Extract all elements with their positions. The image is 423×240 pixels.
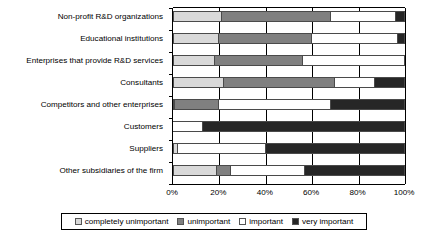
axis-tick (169, 74, 173, 75)
legend-label: completely unimportant (85, 217, 169, 226)
category-label: Competitors and other enterprises (0, 100, 163, 109)
plot-frame-bottom (173, 184, 405, 185)
bar-segment (173, 11, 222, 22)
stacked-bar-chart: Non-profit R&D organizationsEducational … (0, 0, 423, 240)
legend-swatch-icon (75, 218, 82, 225)
category-label: Enterprises that provide R&D services (0, 56, 163, 65)
bar-segment (217, 165, 231, 176)
chart-legend: completely unimportantunimportantimporta… (61, 213, 367, 230)
bar-segment (398, 33, 405, 44)
bar-segment (203, 121, 405, 132)
bar-row (173, 143, 405, 154)
axis-tick (169, 162, 173, 163)
x-axis-tick-label: 0% (155, 188, 189, 198)
axis-tick (169, 52, 173, 53)
axis-tick (169, 118, 173, 119)
x-axis-tick-label: 40% (248, 188, 282, 198)
legend-label: important (249, 217, 283, 226)
category-label: Customers (0, 122, 163, 131)
bar-segment (312, 33, 398, 44)
category-label: Consultants (0, 78, 163, 87)
bar-row (173, 99, 405, 110)
plot-frame-top (173, 7, 405, 8)
bar-segment (219, 99, 330, 110)
axis-tick (169, 184, 173, 185)
bar-segment (173, 33, 219, 44)
axis-tick (169, 96, 173, 97)
bar-segment (175, 99, 219, 110)
bar-row (173, 11, 405, 22)
bar-segment (335, 77, 374, 88)
x-axis-tick-label: 80% (341, 188, 375, 198)
legend-swatch-icon (292, 218, 299, 225)
category-label: Educational institutions (0, 34, 163, 43)
bar-segment (331, 11, 396, 22)
legend-swatch-icon (177, 218, 184, 225)
bar-segment (178, 143, 266, 154)
bar-segment (266, 143, 405, 154)
bar-segment (173, 121, 203, 132)
legend-label: very important (302, 217, 353, 226)
bar-segment (331, 99, 405, 110)
bar-segment (231, 165, 305, 176)
bar-segment (375, 77, 405, 88)
bar-segment (215, 55, 303, 66)
bar-segment (396, 11, 405, 22)
legend-item: unimportant (177, 217, 230, 226)
x-axis-labels: 0%20%40%60%80%100% (172, 188, 404, 200)
legend-item: important (239, 217, 283, 226)
legend-swatch-icon (239, 218, 246, 225)
legend-item: very important (292, 217, 353, 226)
bar-row (173, 55, 405, 66)
bar-segment (219, 33, 312, 44)
axis-tick (169, 140, 173, 141)
bar-segment (173, 165, 217, 176)
x-axis-tick-label: 20% (201, 188, 235, 198)
axis-tick (169, 30, 173, 31)
bar-segment (222, 11, 331, 22)
bar-segment (303, 55, 405, 66)
category-label: Non-profit R&D organizations (0, 12, 163, 21)
bar-row (173, 165, 405, 176)
x-axis-tick-label: 100% (387, 188, 421, 198)
x-axis-tick-label: 60% (294, 188, 328, 198)
category-label: Other subsidiaries of the firm (0, 166, 163, 175)
category-label: Suppliers (0, 144, 163, 153)
bar-segment (224, 77, 335, 88)
bar-segment (305, 165, 405, 176)
bar-row (173, 121, 405, 132)
legend-item: completely unimportant (75, 217, 169, 226)
category-axis-labels: Non-profit R&D organizationsEducational … (0, 8, 168, 184)
legend-label: unimportant (187, 217, 230, 226)
plot-area (172, 8, 406, 184)
bar-row (173, 77, 405, 88)
bar-row (173, 33, 405, 44)
axis-tick (169, 8, 173, 9)
bar-segment (173, 55, 215, 66)
bar-segment (173, 77, 224, 88)
